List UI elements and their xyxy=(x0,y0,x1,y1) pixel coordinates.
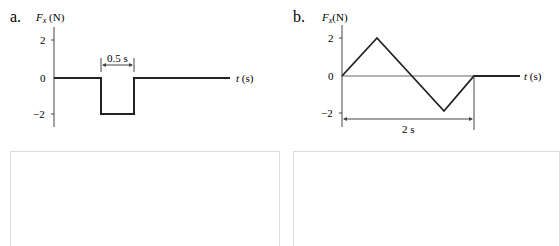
panel-b: b. Fx(N) 2 0 −2 2 s t (s) xyxy=(293,8,542,135)
xlabel-a: t (s) xyxy=(236,72,254,85)
xlabel-b: t (s) xyxy=(524,70,542,83)
panel-a-ylabel: Fx (N) xyxy=(35,11,65,25)
ytick-2-b: 2 xyxy=(328,32,334,44)
ytick-neg2-b: −2 xyxy=(321,107,333,119)
series-a xyxy=(54,78,230,114)
ytick-0: 0 xyxy=(40,72,46,84)
annotation-b: 2 s xyxy=(402,123,415,135)
panel-b-label: b. xyxy=(293,8,305,25)
answer-box-a[interactable] xyxy=(10,151,280,246)
panel-b-ylabel: Fx(N) xyxy=(321,11,348,25)
series-b xyxy=(342,38,520,111)
annotation-a: 0.5 s xyxy=(107,52,128,64)
ytick-2: 2 xyxy=(40,34,46,46)
ytick-0-b: 0 xyxy=(328,70,334,82)
ytick-neg2: −2 xyxy=(33,108,45,120)
answer-box-b[interactable] xyxy=(293,151,560,246)
panel-a: a. Fx (N) 2 0 −2 0.5 s t (s) xyxy=(10,8,254,127)
panel-a-label: a. xyxy=(10,8,21,25)
